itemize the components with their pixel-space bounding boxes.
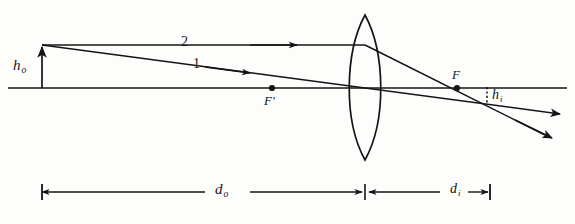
near-focal-point-label: F'	[264, 94, 275, 107]
image-distance-label: di	[450, 182, 460, 196]
object-height-label: ho	[13, 58, 25, 73]
ray-1-incoming	[42, 45, 365, 88]
far-focal-point-label: F	[452, 68, 460, 81]
ray-diagram-svg	[0, 0, 575, 224]
ray-2-label: 2	[181, 35, 188, 49]
focal-point-far-dot	[454, 85, 460, 91]
object-distance-label: do	[215, 182, 227, 197]
ray-1-direction-arrow	[205, 67, 250, 73]
image-height-label: hi	[492, 88, 502, 102]
ray-1-label: 1	[193, 57, 200, 71]
figure-canvas: ho hi F' F do di 2 1	[0, 0, 575, 224]
ray-1-outgoing	[365, 88, 560, 114]
focal-point-near-dot	[269, 85, 275, 91]
ray-2-far-arrow	[515, 120, 552, 138]
